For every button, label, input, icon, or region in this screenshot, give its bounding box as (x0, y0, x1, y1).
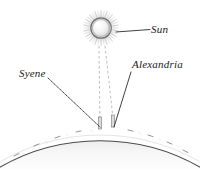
diagram-canvas (0, 0, 200, 170)
gnomon-icon-alexandria (112, 115, 115, 127)
earth-arc-icon (0, 135, 200, 170)
leader-alexandria (114, 72, 131, 127)
leader-sun (116, 30, 150, 33)
eratosthenes-diagram: Sun Alexandria Syene (0, 0, 200, 170)
sun-icon (83, 10, 119, 46)
label-syene: Syene (19, 68, 46, 79)
leader-syene (48, 78, 100, 127)
label-alexandria: Alexandria (132, 59, 183, 70)
ray-to-syene (99, 46, 100, 128)
label-sun: Sun (151, 24, 168, 35)
